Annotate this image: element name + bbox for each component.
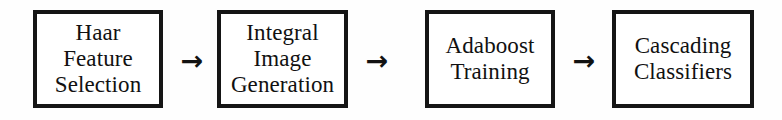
flow-node-integral-image-generation: Integral Image Generation: [217, 10, 348, 108]
flow-node-haar-feature-selection: Haar Feature Selection: [33, 10, 163, 108]
flow-node-adaboost-training: Adaboost Training: [425, 10, 555, 108]
flow-node-cascading-line-2: Classifiers: [634, 59, 732, 85]
flow-node-adaboost-line-1: Adaboost: [446, 33, 535, 59]
flow-node-integral-line-3: Generation: [231, 72, 334, 98]
arrow-right-icon-3: →: [562, 45, 606, 75]
flow-node-cascading-line-1: Cascading: [635, 33, 732, 59]
arrow-right-icon-2: →: [355, 45, 399, 75]
flow-node-integral-line-1: Integral: [246, 20, 318, 46]
arrow-right-icon-1: →: [170, 45, 214, 75]
flow-node-adaboost-line-2: Training: [450, 59, 529, 85]
flowchart-diagram: Haar Feature Selection → Integral Image …: [0, 0, 782, 120]
flow-node-cascading-classifiers: Cascading Classifiers: [612, 10, 754, 108]
flow-node-haar-line-2: Feature: [63, 46, 133, 72]
flow-node-integral-line-2: Image: [254, 46, 312, 72]
flow-node-haar-line-3: Selection: [55, 72, 142, 98]
flow-node-haar-line-1: Haar: [75, 20, 120, 46]
